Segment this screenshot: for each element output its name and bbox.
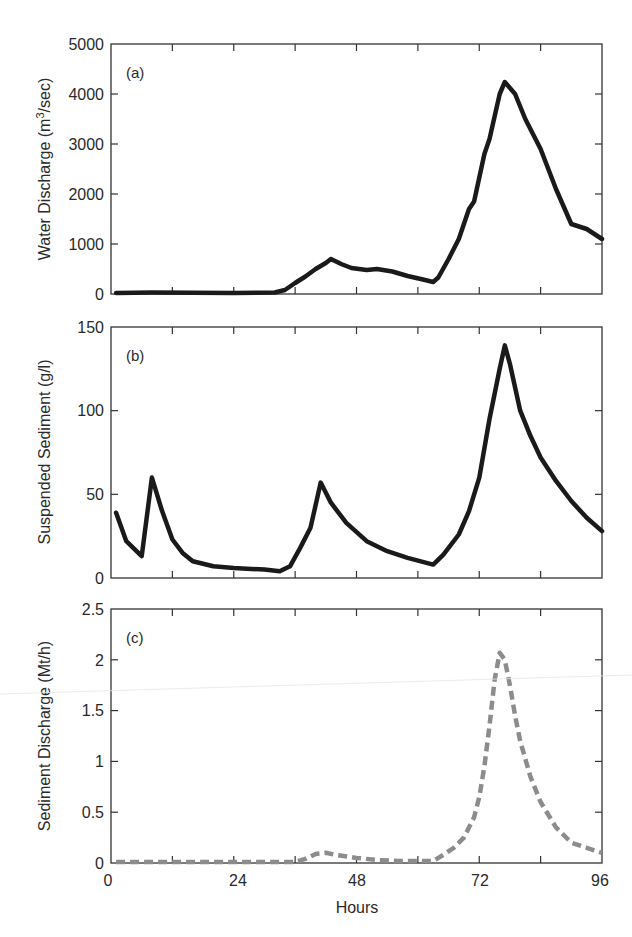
panel-a-ytick: 0 xyxy=(95,286,104,303)
panel-c-ytick: 0.5 xyxy=(82,804,104,821)
panel-b-ytick: 0 xyxy=(95,570,104,587)
ylabel-a-pre: Water Discharge (m xyxy=(36,119,53,261)
panel-a-tag: (a) xyxy=(126,64,144,81)
panel-a-ytick: 2000 xyxy=(68,186,104,203)
panel-c-tag: (c) xyxy=(126,629,144,646)
panel-c-ytick: 0 xyxy=(95,855,104,872)
panel-b-ytick: 50 xyxy=(86,486,104,503)
panel-c-ytick: 2 xyxy=(95,652,104,669)
panel-a-ytick: 4000 xyxy=(68,86,104,103)
panel-c-ylabel: Sediment Discharge (Mt/h) xyxy=(36,641,53,831)
panel-b-tag: (b) xyxy=(126,347,144,364)
panel-b: (b) 0 50 100 150 Suspended Sediment (g/l… xyxy=(36,319,602,587)
sediment-discharge-line xyxy=(116,653,602,862)
panel-a-ylabel: Water Discharge (m3/sec) xyxy=(34,78,53,260)
panel-a: (a) 0 1000 2000 3000 4000 5000 Water Dis… xyxy=(34,36,602,303)
scan-artifact-line xyxy=(0,675,632,694)
panel-b-frame xyxy=(111,327,602,578)
xtick-label-48: 48 xyxy=(348,872,366,889)
ylabel-a-post: /sec) xyxy=(36,78,53,113)
panel-a-ticks xyxy=(111,44,602,294)
panel-c-frame xyxy=(111,609,602,863)
panel-b-ticks xyxy=(111,327,602,578)
panel-a-ytick: 5000 xyxy=(68,36,104,53)
panel-c-ticks xyxy=(111,609,602,863)
panel-a-ytick: 3000 xyxy=(68,136,104,153)
panel-c-ytick: 1 xyxy=(95,753,104,770)
panel-c-ytick: 1.5 xyxy=(82,702,104,719)
water-discharge-line xyxy=(116,82,602,293)
xtick-label-96: 96 xyxy=(591,872,609,889)
panel-a-ytick: 1000 xyxy=(68,236,104,253)
xtick-label-24: 24 xyxy=(229,872,247,889)
xtick-label-72: 72 xyxy=(471,872,489,889)
panel-a-frame xyxy=(111,44,602,294)
panel-b-ytick: 100 xyxy=(77,402,104,419)
x-axis-label: Hours xyxy=(336,899,379,916)
panel-c: (c) 0 0.5 1 1.5 2 2.5 Sediment Discharge… xyxy=(36,601,609,916)
hydrograph-figure: (a) 0 1000 2000 3000 4000 5000 Water Dis… xyxy=(0,0,632,937)
xtick-label-0: 0 xyxy=(104,872,113,889)
panel-b-ytick: 150 xyxy=(77,319,104,336)
panel-c-ytick: 2.5 xyxy=(82,601,104,618)
suspended-sediment-line xyxy=(116,345,602,571)
panel-b-ylabel: Suspended Sediment (g/l) xyxy=(36,360,53,545)
